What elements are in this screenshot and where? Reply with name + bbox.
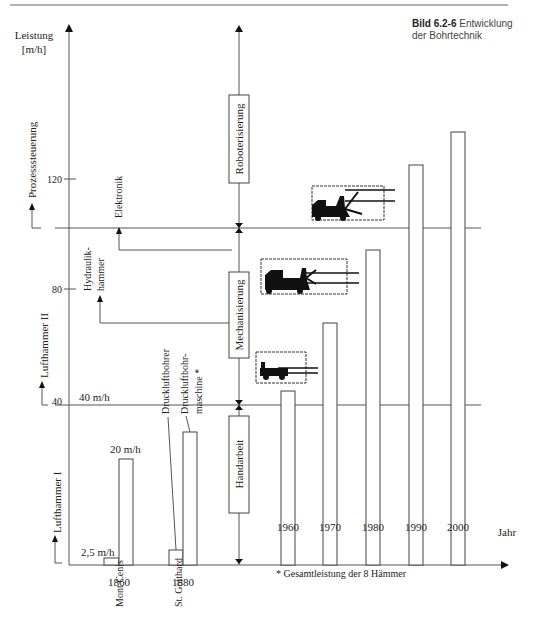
phase-handarbeit: Handarbeit	[233, 440, 245, 489]
marker-hydraulikhammer-line	[100, 300, 232, 323]
phase-lufthammer-2: Lufthammer II	[38, 313, 50, 378]
x-axis-arrow-icon	[501, 561, 509, 569]
arrow-up-icon	[235, 228, 243, 233]
leader-druckluftbohrer	[168, 417, 176, 550]
x-tick-1990: 1990	[405, 521, 428, 533]
arrow-up-icon	[235, 405, 243, 410]
footnote: * Gesamtleistung der 8 Hämmer	[276, 568, 407, 579]
bar-1860	[119, 459, 133, 565]
y-axis-label-line1: Leistung	[15, 29, 54, 41]
bracket-lufthammer-1	[55, 540, 62, 563]
label-20-mh: 20 m/h	[110, 443, 141, 455]
label-mont-cenis: Mont Cenis	[114, 560, 125, 607]
phase-roboterisierung: Roboterisierung	[233, 103, 245, 174]
marker-hydraulikhammer-1: Hydraulik-	[82, 247, 93, 291]
arrow-up-icon	[235, 25, 243, 32]
marker-hydraulikhammer-2: hammer	[95, 258, 106, 291]
x-axis-label: Jahr	[498, 526, 517, 538]
label-druckluftbohrer: Druckluftbohrer	[160, 348, 171, 414]
marker-elektronik-line	[119, 233, 232, 250]
label-druckluftbohrmaschine-1: Druckluftbohr-	[179, 354, 190, 414]
label-druckluftbohrmaschine-2: maschine *	[193, 369, 204, 414]
y-tick-label-120: 120	[47, 174, 62, 185]
bar-1990	[409, 165, 423, 565]
phase-prozesssteuerung: Prozesssteuerung	[26, 121, 38, 198]
y-axis-label-line2: [m/h]	[22, 43, 46, 55]
x-tick-1970: 1970	[319, 521, 342, 533]
drill-machine-medium-icon	[261, 259, 359, 294]
bar-1980	[366, 250, 380, 565]
chart-canvas: Leistung [m/h] 120 80 40 Jahr Lufthammer…	[0, 0, 536, 624]
arrow-up-icon	[29, 203, 35, 210]
bar-1880	[183, 432, 197, 565]
bar-1960	[281, 391, 295, 565]
label-2-5-mh: 2,5 m/h	[81, 546, 115, 558]
drill-machine-small-icon	[256, 352, 318, 383]
bracket-lufthammer-2	[42, 386, 48, 405]
arrow-down-icon	[235, 223, 243, 228]
bracket-prozesssteuerung	[32, 208, 41, 228]
x-tick-2000: 2000	[447, 521, 470, 533]
bar-2000	[451, 132, 465, 565]
y-axis-arrow-icon	[65, 24, 73, 32]
arrow-up-icon	[97, 295, 103, 302]
drill-machine-large-icon	[312, 186, 395, 221]
arrow-up-icon	[39, 381, 45, 388]
marker-elektronik: Elektronik	[113, 176, 124, 218]
phase-mechanisierung: Mechanisierung	[233, 279, 245, 350]
y-tick-label-80: 80	[52, 284, 62, 295]
arrow-down-icon	[235, 559, 243, 564]
leader-druckluftbohrmaschine	[186, 416, 190, 432]
x-tick-1960: 1960	[277, 521, 300, 533]
phase-lufthammer-1: Lufthammer I	[51, 471, 63, 533]
arrow-down-icon	[235, 400, 243, 405]
label-40-mh: 40 m/h	[79, 391, 110, 403]
arrow-up-icon	[52, 535, 58, 542]
label-st-gotthard: St. Gotthard	[173, 558, 184, 607]
x-tick-1980: 1980	[362, 521, 385, 533]
